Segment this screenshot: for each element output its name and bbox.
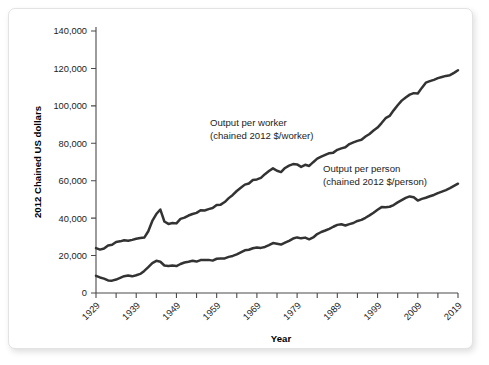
x-tick-label: 2009 (402, 300, 424, 322)
x-tick-label: 1969 (241, 300, 263, 322)
y-tick-label: 120,000 (53, 64, 87, 74)
y-axis-title: 2012 Chained US dollars (32, 106, 43, 218)
x-axis-ticks: 1929193919491959196919791989199920092019 (80, 293, 464, 322)
y-tick-label: 60,000 (59, 176, 87, 186)
x-axis-title: Year (271, 333, 292, 344)
series-line (96, 184, 458, 281)
annotation-label: (chained 2012 $/worker) (210, 130, 313, 141)
y-axis-ticks: 020,00040,00060,00080,000100,000120,0001… (53, 26, 96, 298)
x-tick-label: 1979 (281, 300, 303, 322)
series-annotations: Output per worker(chained 2012 $/worker)… (210, 117, 427, 187)
x-tick-label: 1939 (120, 300, 142, 322)
x-tick-label: 1989 (322, 300, 344, 322)
x-tick-label: 1949 (161, 300, 183, 322)
y-tick-label: 80,000 (59, 139, 87, 149)
x-tick-label: 2019 (442, 300, 464, 322)
x-tick-label: 1959 (201, 300, 223, 322)
annotation-label: (chained 2012 $/person) (323, 176, 427, 187)
y-tick-label: 40,000 (59, 214, 87, 224)
y-tick-label: 0 (82, 288, 87, 298)
line-chart: 020,00040,00060,00080,000100,000120,0001… (9, 9, 473, 349)
y-tick-label: 20,000 (59, 251, 87, 261)
series-line (96, 70, 458, 249)
annotation-label: Output per worker (210, 117, 288, 128)
chart-card: 020,00040,00060,00080,000100,000120,0001… (8, 8, 473, 349)
x-tick-label: 1999 (362, 300, 384, 322)
annotation-label: Output per person (323, 163, 400, 174)
x-tick-label: 1929 (80, 300, 102, 322)
y-tick-label: 100,000 (53, 101, 87, 111)
y-tick-label: 140,000 (53, 26, 87, 36)
chart-axes (96, 27, 458, 293)
